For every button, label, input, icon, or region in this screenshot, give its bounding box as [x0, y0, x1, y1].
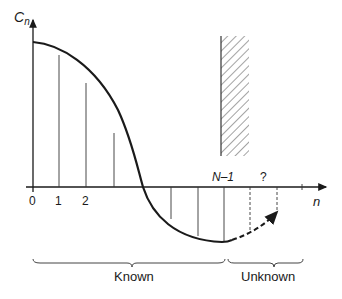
extrapolated-curve — [232, 212, 277, 240]
known-curve — [33, 42, 232, 242]
unknown-label: Unknown — [241, 269, 295, 284]
known-sample-lines — [59, 55, 224, 241]
y-axis-label: Cn — [14, 9, 30, 27]
tick-label-0: 0 — [29, 194, 36, 208]
tick-label-1: 1 — [55, 194, 62, 208]
known-brace — [33, 259, 225, 267]
x-axis-label: n — [313, 194, 320, 209]
unknown-marker: ? — [260, 170, 267, 184]
autocorrelation-extrapolation-diagram: Cn n 0 1 2 N–1 ? Known Unknown — [0, 0, 342, 299]
known-label: Known — [114, 269, 154, 284]
last-known-label: N–1 — [212, 170, 234, 184]
hatched-wall — [221, 36, 249, 156]
tick-label-2: 2 — [82, 194, 89, 208]
unknown-brace — [228, 259, 303, 267]
